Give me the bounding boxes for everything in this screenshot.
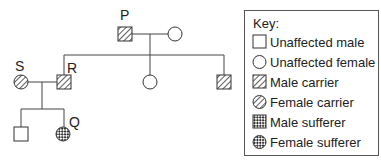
key-circle-checkered-icon xyxy=(253,136,266,149)
key-circle-hatched-icon xyxy=(253,96,266,109)
key-square-empty-icon xyxy=(253,35,266,48)
key-label-unaffected-female: Unaffected female xyxy=(270,55,375,70)
male-carrier-r xyxy=(57,75,71,89)
pedigree-lines xyxy=(21,34,224,127)
key-label-male-carrier: Male carrier xyxy=(270,75,339,90)
key-label-unaffected-male: Unaffected male xyxy=(270,35,364,50)
male-carrier-p xyxy=(118,27,132,41)
male-unaffected-gen3 xyxy=(14,127,28,141)
label-p: P xyxy=(120,7,129,23)
label-q: Q xyxy=(69,114,80,130)
key-title: Key: xyxy=(253,16,279,31)
female-unaffected-gen1 xyxy=(168,27,182,41)
key-label-female-sufferer: Female sufferer xyxy=(270,135,361,150)
female-unaffected-gen2 xyxy=(143,75,157,89)
female-carrier-s xyxy=(14,75,28,89)
male-carrier-gen2-right xyxy=(217,75,231,89)
key-label-male-sufferer: Male sufferer xyxy=(270,115,346,130)
label-s: S xyxy=(15,58,24,74)
key-circle-empty-icon xyxy=(253,56,266,69)
key-label-female-carrier: Female carrier xyxy=(270,95,354,110)
key-legend: Key: Unaffected male Unaffected female M… xyxy=(245,11,379,156)
key-square-hatched-icon xyxy=(253,75,266,88)
female-sufferer-q xyxy=(56,127,70,141)
key-square-checkered-icon xyxy=(253,115,266,128)
label-r: R xyxy=(67,60,77,76)
